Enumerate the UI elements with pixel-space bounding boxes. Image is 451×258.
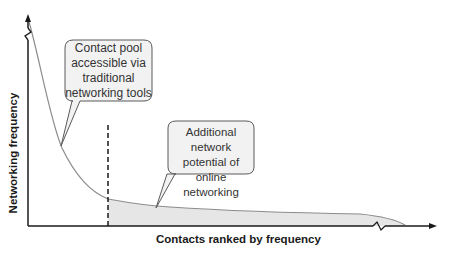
callout-online-text: Additional network potential of online n…	[168, 125, 254, 200]
x-axis-arrow-icon	[429, 223, 437, 229]
callout-traditional-text: Contact pool accessible via traditional …	[65, 41, 152, 101]
callout-line: networking tools	[65, 86, 152, 101]
y-axis-label: Networking frequency	[7, 88, 19, 218]
y-axis-arrow-icon	[25, 14, 31, 22]
y-axis	[25, 14, 31, 226]
online-networking-area	[108, 199, 405, 226]
callout-line: online networking	[168, 170, 254, 200]
x-axis-label: Contacts ranked by frequency	[156, 233, 321, 245]
callout-line: traditional	[65, 71, 152, 86]
y-axis-break-icon	[25, 28, 31, 40]
callout-line: Contact pool	[65, 41, 152, 56]
callout-line: potential of	[168, 155, 254, 170]
callout-line: accessible via	[65, 56, 152, 71]
callout-line: Additional network	[168, 125, 254, 155]
